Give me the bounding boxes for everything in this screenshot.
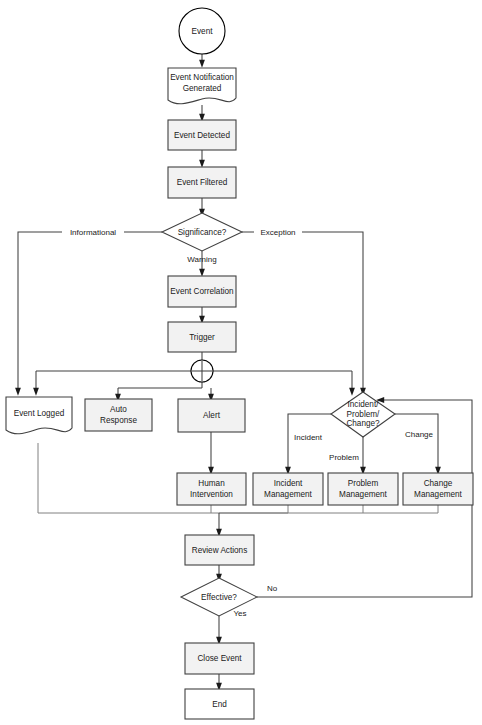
human-intervention-label-line1: Human xyxy=(198,479,225,488)
node-event-detected[interactable]: Event Detected xyxy=(168,120,236,150)
node-alert[interactable]: Alert xyxy=(178,399,245,432)
change-management-label-line2: Management xyxy=(414,490,463,499)
node-trigger[interactable]: Trigger xyxy=(168,322,236,352)
node-auto-response[interactable]: Auto Response xyxy=(85,399,152,431)
node-end[interactable]: End xyxy=(185,689,254,719)
ipc-label-line2: Problem/ xyxy=(347,410,380,419)
edge-significance-exception xyxy=(242,232,363,392)
node-ipc-decision[interactable]: Incident/ Problem/ Change? xyxy=(331,392,395,437)
auto-response-label-line2: Response xyxy=(100,416,137,425)
edge-significance-informational xyxy=(18,232,162,392)
auto-response-label-line1: Auto xyxy=(110,405,127,414)
review-actions-label: Review Actions xyxy=(192,546,248,555)
close-event-label: Close Event xyxy=(197,654,242,663)
edge-label-change: Change xyxy=(405,430,434,439)
node-human-intervention[interactable]: Human Intervention xyxy=(177,473,246,505)
node-change-management[interactable]: Change Management xyxy=(403,473,473,505)
node-problem-management[interactable]: Problem Management xyxy=(328,473,398,505)
edge-label-warning: Warning xyxy=(187,255,217,264)
edge-ipc-incident xyxy=(288,414,331,471)
event-label: Event xyxy=(192,27,214,36)
end-label: End xyxy=(212,700,227,709)
effective-label: Effective? xyxy=(201,593,237,602)
edge-label-exception: Exception xyxy=(260,228,295,237)
node-junction-connector xyxy=(191,360,213,382)
change-management-label-line1: Change xyxy=(424,479,453,488)
notification-label-line1: Event Notification xyxy=(170,73,234,82)
node-event[interactable]: Event xyxy=(179,8,225,54)
event-management-flowchart: Event Event Notification Generated Event… xyxy=(0,0,482,725)
edge-ipc-change xyxy=(395,414,438,471)
significance-label: Significance? xyxy=(178,228,227,237)
node-event-logged[interactable]: Event Logged xyxy=(6,397,72,434)
edge-label-informational: Informational xyxy=(70,228,116,237)
edge-label-yes: Yes xyxy=(233,609,246,618)
node-incident-management[interactable]: Incident Management xyxy=(253,473,323,505)
edge-label-incident: Incident xyxy=(294,433,323,442)
event-logged-label: Event Logged xyxy=(14,409,65,418)
ipc-label-line3: Change? xyxy=(346,419,380,428)
node-event-notification-generated[interactable]: Event Notification Generated xyxy=(168,68,236,104)
alert-label: Alert xyxy=(203,411,221,420)
node-event-correlation[interactable]: Event Correlation xyxy=(168,276,236,307)
notification-label-line2: Generated xyxy=(183,84,222,93)
event-filtered-label: Event Filtered xyxy=(177,178,228,187)
node-event-filtered[interactable]: Event Filtered xyxy=(168,167,236,198)
edge-label-no: No xyxy=(267,584,278,593)
problem-management-label-line2: Management xyxy=(339,490,388,499)
problem-management-label-line1: Problem xyxy=(348,479,379,488)
incident-management-label-line1: Incident xyxy=(274,479,303,488)
ipc-label-line1: Incident/ xyxy=(348,400,380,409)
human-intervention-label-line2: Intervention xyxy=(190,490,233,499)
edge-change-collector xyxy=(219,505,438,513)
edge-incident-collector xyxy=(219,505,288,513)
node-significance-decision[interactable]: Significance? xyxy=(162,213,242,251)
event-correlation-label: Event Correlation xyxy=(170,287,234,296)
trigger-label: Trigger xyxy=(189,333,215,342)
incident-management-label-line2: Management xyxy=(264,490,313,499)
edge-label-problem: Problem xyxy=(329,453,359,462)
node-close-event[interactable]: Close Event xyxy=(185,643,254,674)
event-detected-label: Event Detected xyxy=(174,131,230,140)
node-review-actions[interactable]: Review Actions xyxy=(185,535,254,565)
